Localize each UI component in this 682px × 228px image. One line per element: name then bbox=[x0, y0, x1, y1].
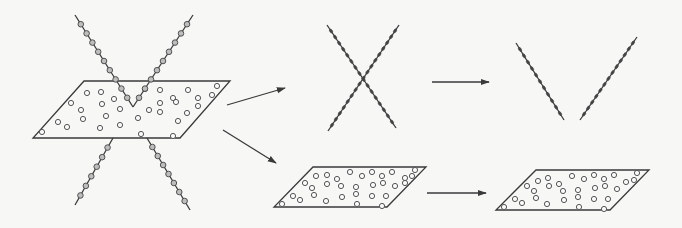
particle-dot bbox=[614, 186, 619, 191]
line-bead bbox=[155, 153, 161, 159]
line-bead bbox=[602, 82, 607, 87]
particle-dot bbox=[575, 187, 580, 192]
line-bead bbox=[631, 40, 636, 45]
line-bead bbox=[78, 193, 84, 199]
line-bead bbox=[166, 171, 172, 177]
particle-dot bbox=[535, 178, 540, 183]
line-bead bbox=[526, 60, 531, 65]
particle-dot bbox=[290, 193, 295, 198]
line-bead bbox=[382, 107, 387, 112]
line-bead bbox=[373, 95, 378, 100]
particle-dot bbox=[369, 169, 374, 174]
line-bead bbox=[542, 85, 547, 90]
particle-dot bbox=[561, 197, 566, 202]
line-bead bbox=[614, 64, 619, 69]
particle-dot bbox=[524, 183, 529, 188]
particle-dot bbox=[309, 185, 314, 190]
particle-dot bbox=[383, 193, 388, 198]
line-bead bbox=[119, 86, 125, 92]
line-bead bbox=[377, 101, 382, 106]
particle-dot bbox=[631, 177, 636, 182]
line-bead bbox=[99, 154, 105, 160]
line-bead bbox=[166, 49, 172, 55]
dotted-plane-component bbox=[274, 167, 426, 209]
particle-dot bbox=[64, 124, 69, 129]
line-bead bbox=[101, 58, 107, 64]
line-bead bbox=[353, 65, 358, 70]
particle-dot bbox=[501, 204, 506, 209]
arrow-source-to-plane-icon bbox=[223, 130, 276, 163]
particle-dot bbox=[324, 181, 329, 186]
line-bead bbox=[176, 189, 182, 195]
line-bead bbox=[627, 46, 632, 51]
particle-dot bbox=[605, 196, 610, 201]
particle-dot bbox=[117, 106, 122, 111]
line-bead bbox=[178, 31, 184, 37]
source-plane-with-crossing-lines bbox=[33, 15, 230, 210]
line-bead bbox=[373, 58, 378, 63]
line-bead bbox=[182, 198, 188, 204]
particle-dot bbox=[302, 180, 307, 185]
line-bead bbox=[330, 123, 335, 128]
particle-dot bbox=[97, 125, 102, 130]
particle-dot bbox=[103, 113, 108, 118]
particle-dot bbox=[602, 183, 607, 188]
line-bead bbox=[90, 40, 96, 46]
particle-dot bbox=[569, 173, 574, 178]
particle-dot bbox=[575, 194, 580, 199]
line-bead bbox=[341, 105, 346, 110]
middle-line-a bbox=[327, 25, 396, 128]
line-bead bbox=[105, 145, 111, 151]
particle-dot bbox=[546, 183, 551, 188]
particle-dot bbox=[379, 173, 384, 178]
line-bead bbox=[329, 29, 334, 34]
line-bead bbox=[124, 95, 130, 101]
line-bead bbox=[357, 71, 362, 76]
particle-dot bbox=[623, 179, 628, 184]
line-bead bbox=[538, 79, 543, 84]
particle-dot bbox=[170, 133, 175, 138]
line-bead bbox=[369, 89, 374, 94]
line-bead bbox=[606, 76, 611, 81]
particle-dot bbox=[544, 201, 549, 206]
line-bead bbox=[333, 35, 338, 40]
particle-dot bbox=[353, 191, 358, 196]
particle-dot bbox=[324, 172, 329, 177]
source-plane-outline bbox=[33, 81, 230, 138]
particle-dot bbox=[209, 92, 214, 97]
transition-arrows bbox=[223, 82, 489, 193]
particle-dot bbox=[592, 185, 597, 190]
line-bead bbox=[88, 173, 94, 179]
line-bead bbox=[365, 83, 370, 88]
line-bead bbox=[598, 88, 603, 93]
particle-dot bbox=[634, 170, 639, 175]
particle-dot bbox=[184, 110, 189, 115]
line-bead bbox=[369, 64, 374, 69]
particle-dot bbox=[78, 107, 83, 112]
particle-dot bbox=[611, 172, 616, 177]
line-bead bbox=[365, 70, 370, 75]
particle-dot bbox=[392, 183, 397, 188]
particle-dot bbox=[157, 100, 162, 105]
line-bead bbox=[357, 81, 362, 86]
particle-dot bbox=[55, 119, 60, 124]
dotted-plane-result bbox=[496, 170, 649, 212]
line-bead bbox=[353, 87, 358, 92]
line-bead bbox=[113, 77, 119, 83]
line-bead bbox=[78, 21, 84, 27]
particle-dot bbox=[323, 198, 328, 203]
line-bead bbox=[148, 77, 154, 83]
line-bead bbox=[586, 106, 591, 111]
decomposition-diagram bbox=[0, 0, 682, 228]
line-bead bbox=[84, 31, 90, 37]
line-bead bbox=[338, 111, 343, 116]
line-bead bbox=[610, 70, 615, 75]
particle-dot bbox=[98, 89, 103, 94]
particle-dot bbox=[311, 192, 316, 197]
line-bead bbox=[172, 40, 178, 46]
particle-dot bbox=[297, 197, 302, 202]
particle-dot bbox=[581, 176, 586, 181]
particle-dot bbox=[313, 173, 318, 178]
particle-dot bbox=[39, 129, 44, 134]
particle-dot bbox=[402, 175, 407, 180]
